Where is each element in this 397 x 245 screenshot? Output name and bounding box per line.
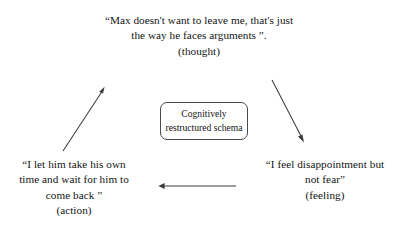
thought-role-label: (thought) [88,44,310,59]
diagram-canvas: “Max doesn't want to leave me, that's ju… [0,0,397,245]
schema-box-line-1: Cognitively [181,107,226,121]
thought-line-2: the way he faces arguments ”. [88,28,310,43]
action-line-1: “I let him take his own [6,157,142,172]
arrow-thought-to-feeling [272,80,304,142]
node-thought: “Max doesn't want to leave me, that's ju… [88,13,310,59]
feeling-role-label: (feeling) [258,188,392,203]
node-action: “I let him take his own time and wait fo… [6,157,142,219]
node-feeling: “I feel disappointment but not fear” (fe… [258,157,392,203]
schema-box-line-2: restructured schema [166,121,243,135]
action-line-2: time and wait for him to [6,172,142,187]
action-line-3: come back ” [6,188,142,203]
feeling-line-2: not fear” [258,172,392,187]
center-schema-box: Cognitively restructured schema [160,102,248,140]
thought-line-1: “Max doesn't want to leave me, that's ju… [88,13,310,28]
arrow-action-to-thought [63,87,105,151]
arrow-feeling-to-action [158,183,236,189]
action-role-label: (action) [6,203,142,218]
feeling-line-1: “I feel disappointment but [258,157,392,172]
